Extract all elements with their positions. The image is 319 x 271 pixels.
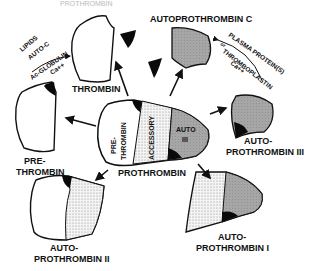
ap1-label-2: PROTHROMBIN I	[196, 243, 269, 253]
header-text: PROTHROMBIN	[60, 0, 113, 7]
svg-text:THROMBOPLASTIN: THROMBOPLASTIN	[221, 47, 274, 90]
prethrombin-shape	[16, 82, 56, 152]
prothrombin-diagram: PROTHROMBIN THROMBIN AUTOPROTHROMBIN C P…	[0, 0, 319, 271]
left-annotation: LIPIDS AUTO-C Ac-GLOBULIN Ca++	[18, 34, 69, 81]
autoprothrombin-c-label: AUTOPROTHROMBIN C	[150, 14, 253, 24]
ap3-label-1: AUTO-	[244, 136, 272, 146]
prothrombin-label: PROTHROMBIN	[118, 168, 186, 178]
thrombin-label: THROMBIN	[72, 84, 121, 94]
autoprothrombin-c-shape	[172, 28, 211, 68]
svg-text:III: III	[182, 136, 188, 143]
svg-text:ACCESSORY: ACCESSORY	[148, 116, 155, 160]
svg-text:PRE-: PRE-	[110, 137, 117, 154]
black-wedge-2	[148, 58, 162, 78]
black-wedge-1	[120, 30, 136, 48]
ap3-label-2: PROTHROMBIN III	[226, 147, 304, 157]
thrombin-shape	[72, 16, 114, 82]
right-annotation: PLASMA PROTEIN(S) or THROMBOPLASTIN Ca++	[220, 31, 286, 91]
ap1-label-1: AUTO-	[218, 232, 246, 242]
svg-text:THROMBIN: THROMBIN	[120, 122, 127, 160]
ap2-label-2: PROTHROMBIN II	[34, 254, 110, 264]
prothrombin-center: PRE- THROMBIN ACCESSORY AUTO III	[98, 100, 209, 166]
ap2-label-1: AUTO-	[50, 243, 78, 253]
svg-text:AUTO: AUTO	[176, 126, 196, 133]
prethrombin-label-1: PRE-	[24, 156, 46, 166]
